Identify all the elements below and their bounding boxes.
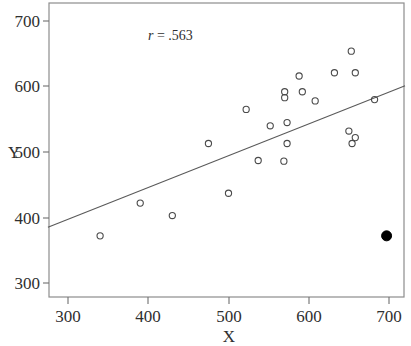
- data-point: [169, 212, 175, 218]
- correlation-equals: =: [153, 28, 168, 43]
- correlation-value: .563: [168, 28, 193, 43]
- y-axis-title: Y: [8, 143, 20, 162]
- x-axis-tick-labels: 300 400 500 600 700: [55, 307, 402, 326]
- regression-line: [48, 86, 405, 227]
- data-point: [97, 233, 103, 239]
- y-axis-ticks: [43, 21, 49, 283]
- data-point: [296, 73, 302, 79]
- y-tick-label-600: 600: [15, 77, 41, 96]
- data-point: [346, 128, 352, 134]
- x-tick-label-300: 300: [55, 307, 81, 326]
- y-tick-label-300: 300: [15, 274, 41, 293]
- y-tick-label-700: 700: [15, 12, 41, 31]
- scatter-plot-figure: 700 600 500 400 300 Y 300 400 500 600 70…: [0, 0, 411, 346]
- x-tick-label-400: 400: [135, 307, 161, 326]
- data-point-outlier: [382, 231, 392, 241]
- data-point: [282, 89, 288, 95]
- x-axis-ticks: [68, 297, 389, 304]
- y-tick-label-400: 400: [15, 209, 41, 228]
- data-point: [282, 95, 288, 101]
- data-point: [205, 140, 211, 146]
- data-point: [299, 89, 305, 95]
- data-point: [352, 70, 358, 76]
- data-point: [137, 200, 143, 206]
- data-point: [284, 119, 290, 125]
- series-observations: [97, 48, 378, 239]
- data-point: [281, 158, 287, 164]
- correlation-annotation: r = .563: [148, 28, 193, 43]
- data-point: [243, 106, 249, 112]
- data-point: [352, 134, 358, 140]
- data-point: [267, 123, 273, 129]
- data-points-layer: [97, 48, 392, 241]
- x-tick-label-600: 600: [296, 307, 322, 326]
- plot-canvas: 700 600 500 400 300 Y 300 400 500 600 70…: [0, 0, 411, 346]
- series-outlier: [382, 231, 392, 241]
- x-tick-label-500: 500: [216, 307, 242, 326]
- data-point: [349, 140, 355, 146]
- data-point: [255, 157, 261, 163]
- x-axis-title: X: [223, 327, 235, 346]
- x-tick-label-700: 700: [376, 307, 402, 326]
- data-point: [284, 140, 290, 146]
- data-point: [225, 190, 231, 196]
- data-point: [331, 70, 337, 76]
- plot-frame: [49, 3, 404, 297]
- data-point: [312, 98, 318, 104]
- data-point: [348, 48, 354, 54]
